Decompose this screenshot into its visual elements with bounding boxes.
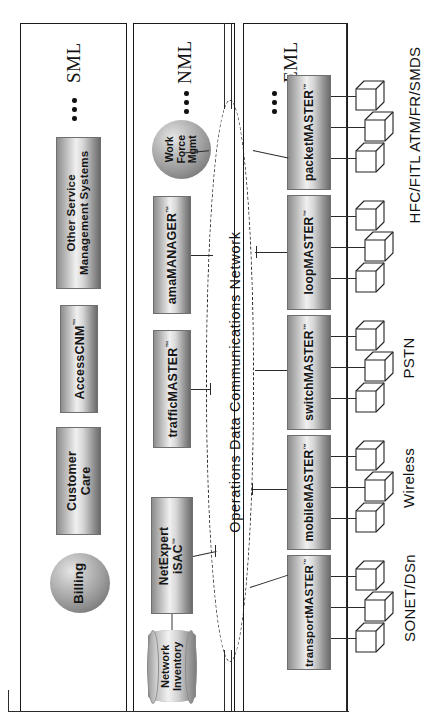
node-packetmaster[interactable]: packetMASTER™ [287, 75, 331, 190]
bus-rail-right-top [231, 23, 232, 109]
connector-cloud-to-switchmaster [255, 370, 287, 371]
node-label: Other ServiceManagement Systems [66, 151, 92, 275]
ellipsis-dot-nml-2 [184, 100, 189, 105]
network-label-sonet: SONET/DSn [401, 546, 419, 650]
network-label-wireless: Wireless [400, 437, 418, 519]
node-label: packetMASTER™ [302, 84, 316, 182]
node-accesscnm[interactable]: AccessCNM™ [60, 305, 98, 413]
cylinder-cap-left [147, 630, 159, 704]
trademark-mark: ™ [302, 558, 309, 564]
node-other-service-management-systems[interactable]: Other ServiceManagement Systems [56, 137, 101, 289]
frame-link-bottom-left [8, 711, 226, 712]
node-netexpert-isac[interactable]: NetExpertiSAC™ [151, 497, 193, 614]
node-network-inventory[interactable]: NetworkInventory [148, 630, 196, 702]
ellipsis-dot-sml-2 [72, 107, 77, 112]
node-label: CustomerCare [65, 451, 93, 511]
network-element-cube [355, 261, 381, 301]
trademark-mark: ™ [302, 324, 309, 331]
ellipsis-dot-sml-3 [72, 116, 77, 121]
connector-cloud-to-mobilemaster [252, 489, 287, 490]
node-mobilemaster[interactable]: mobileMASTER™ [287, 435, 331, 550]
ellipsis-dot-nml-3 [184, 109, 189, 114]
bus-rail-left-top [224, 23, 225, 109]
network-element-cube [355, 381, 381, 421]
bus-rail-right-bottom [231, 650, 232, 712]
connector-amamanager-to-cloud [191, 255, 213, 256]
node-label: NetExpertiSAC™ [158, 526, 186, 584]
frame-link-left-edge [8, 690, 9, 712]
node-transportmaster[interactable]: transportMASTER™ [287, 555, 331, 670]
node-label: NetworkInventory [160, 641, 185, 691]
node-label: mobileMASTER™ [302, 443, 316, 541]
connector-mobilemaster-stub [252, 483, 253, 495]
network-label-hfc: HFC/FITL ATM/FR/SMDS [406, 45, 424, 225]
connector-trafficmaster-stub [210, 383, 211, 395]
node-amamanager[interactable]: amaMANAGER™ [153, 196, 191, 314]
node-work-force-mgmt[interactable]: WorkForceMgmt [152, 120, 211, 179]
node-label: switchMASTER™ [302, 324, 316, 421]
node-trafficmaster[interactable]: trafficMASTER™ [153, 330, 191, 448]
diagram-canvas: SML NML EML Other ServiceManagement Syst… [0, 0, 435, 727]
ellipsis-dot-eml-2 [272, 100, 277, 105]
trademark-mark: ™ [302, 210, 309, 217]
trademark-mark: ™ [302, 443, 309, 450]
node-loopmaster[interactable]: loopMASTER™ [287, 195, 331, 310]
cylinder-cap-right [185, 630, 197, 704]
node-label: loopMASTER™ [302, 210, 316, 295]
layer-label-sml: SML [63, 55, 85, 83]
node-label: Billing [73, 562, 88, 603]
ellipsis-dot-eml-3 [272, 109, 277, 114]
node-billing[interactable]: Billing [50, 553, 110, 613]
node-switchmaster[interactable]: switchMASTER™ [287, 315, 331, 430]
connector-loopmaster-stub [256, 246, 257, 258]
network-element-cube [355, 141, 381, 181]
trademark-mark: ™ [165, 206, 172, 213]
ellipsis-dot-eml-1 [272, 91, 277, 96]
trademark-mark: ™ [165, 341, 172, 348]
frame-link-bottom-right [231, 711, 349, 712]
cloud-label: Operations Data Communications Network [226, 222, 244, 542]
node-label: AccessCNM™ [72, 319, 86, 400]
node-label: transportMASTER™ [302, 558, 316, 666]
node-customer-care[interactable]: CustomerCare [56, 427, 101, 535]
trademark-mark: ™ [72, 319, 79, 326]
layer-label-nml: NML [174, 54, 196, 84]
connector-netexpert-to-inventory [171, 614, 173, 630]
connector-netexpert-stub [215, 545, 216, 557]
network-label-pstn: PSTN [400, 328, 418, 388]
node-label: amaMANAGER™ [165, 206, 179, 304]
network-element-cube [355, 501, 381, 541]
node-label: WorkForceMgmt [164, 135, 199, 164]
node-label: trafficMASTER™ [165, 341, 179, 438]
trademark-mark: ™ [172, 537, 179, 544]
trademark-mark: ™ [302, 84, 309, 91]
network-element-cube [355, 621, 381, 661]
ellipsis-dot-nml-1 [184, 91, 189, 96]
bus-rail-left-bottom [224, 650, 225, 712]
connector-cloud-to-loopmaster [255, 252, 287, 253]
connector-trafficmaster-to-cloud [191, 389, 211, 390]
ellipsis-dot-sml-1 [72, 98, 77, 103]
